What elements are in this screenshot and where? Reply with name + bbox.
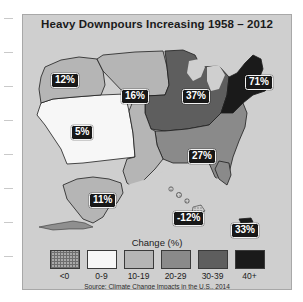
map-label-southwest: 5%: [71, 125, 93, 140]
legend-bin-5: 40+: [235, 250, 265, 281]
margin-tick: [4, 154, 13, 155]
legend-swatch-3: [161, 250, 191, 269]
legend-swatch-4: [198, 250, 228, 269]
map-label-puerto-rico: 33%: [231, 223, 259, 238]
legend-bin-3: 20-29: [161, 250, 191, 281]
legend-swatch-0: [50, 250, 80, 269]
source-caption: Source: Climate Change Impacts in the U.…: [23, 283, 291, 290]
legend-bin-4: 30-39: [198, 250, 228, 281]
map-label-alaska: 11%: [89, 193, 116, 208]
legend-swatch-1: [87, 250, 117, 269]
legend-swatch-2: [124, 250, 154, 269]
map-svg: [23, 33, 291, 235]
legend-label-0: <0: [50, 271, 80, 281]
margin-tick: [4, 86, 13, 87]
figure-panel: Heavy Downpours Increasing 1958 – 2012: [22, 14, 292, 290]
map-label-hawaii: -12%: [173, 211, 204, 226]
legend-bin-0: <0: [50, 250, 80, 281]
map-label-southeast: 27%: [188, 149, 216, 164]
legend-label-1: 0-9: [87, 271, 117, 281]
margin-tick: [4, 18, 13, 19]
legend-label-5: 40+: [235, 271, 265, 281]
page-title: Heavy Downpours Increasing 1958 – 2012: [23, 18, 291, 30]
legend-label-4: 30-39: [198, 271, 228, 281]
legend-swatch-5: [235, 250, 265, 269]
map-label-northeast: 71%: [245, 75, 273, 90]
legend-label-2: 10-19: [124, 271, 154, 281]
margin-tick: [4, 188, 13, 189]
map-label-midwest: 37%: [182, 89, 210, 104]
legend-bin-2: 10-19: [124, 250, 154, 281]
margin-tick: [4, 222, 13, 223]
legend-title: Change (%): [23, 237, 291, 248]
map-label-northern-plains: 16%: [121, 89, 149, 104]
choropleth-map: 12% 16% 5% 37% 71% 27% 11% -12% 33%: [23, 33, 291, 235]
map-label-northwest: 12%: [51, 73, 79, 88]
margin-tick: [4, 52, 13, 53]
legend-label-3: 20-29: [161, 271, 191, 281]
map-legend: Change (%) <00-910-1920-2930-3940+ Sourc…: [23, 237, 291, 290]
legend-swatches: <00-910-1920-2930-3940+: [23, 250, 291, 281]
margin-tick: [4, 256, 13, 257]
margin-tick: [4, 120, 13, 121]
legend-bin-1: 0-9: [87, 250, 117, 281]
